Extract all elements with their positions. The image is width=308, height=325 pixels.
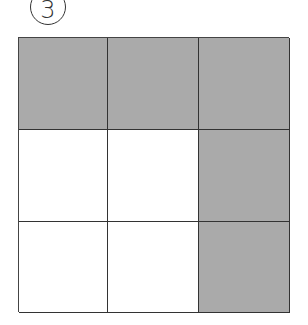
empty-cell-r3-c2: [108, 222, 199, 313]
shaded-cell-r3-c3: [199, 222, 290, 313]
number-badge: 3: [30, 0, 66, 25]
empty-cell-r2-c1: [19, 130, 108, 222]
shaded-grid: [18, 37, 289, 312]
shaded-cell-r1-c3: [199, 38, 290, 130]
empty-cell-r3-c1: [19, 222, 108, 313]
badge-label: 3: [40, 0, 55, 24]
empty-cell-r2-c2: [108, 130, 199, 222]
shaded-cell-r1-c1: [19, 38, 108, 130]
shaded-cell-r2-c3: [199, 130, 290, 222]
shaded-cell-r1-c2: [108, 38, 199, 130]
